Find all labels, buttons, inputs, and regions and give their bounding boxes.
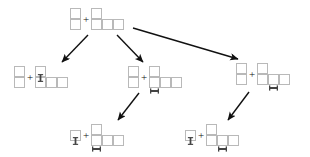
piece-cell (257, 63, 268, 74)
edge-root-to-right (133, 28, 238, 59)
left-leaf-state[interactable]: + (70, 124, 124, 146)
piece-cell (57, 77, 68, 88)
piece-cell (102, 135, 113, 146)
piece-cell (128, 77, 139, 88)
bone-horizontal-icon (269, 77, 278, 83)
piece-cell (14, 66, 25, 77)
edge-root-to-center (117, 35, 143, 62)
edge-center-to-leaf-left (118, 93, 139, 120)
piece-cell (160, 77, 171, 88)
plus-operator: + (139, 72, 149, 83)
l-shape-piece (91, 124, 124, 146)
piece-cell (236, 74, 247, 85)
piece-cell (102, 19, 113, 30)
bone-horizontal-icon (92, 138, 101, 144)
piece-cell (257, 74, 268, 85)
single-cell (185, 130, 196, 141)
vertical-domino (70, 8, 81, 30)
piece-cell (128, 66, 139, 77)
l-shape-piece (257, 63, 290, 85)
piece-cell (91, 124, 102, 135)
piece-cell (14, 77, 25, 88)
plus-operator: + (25, 72, 35, 83)
center-branch-state[interactable]: + (128, 66, 182, 88)
piece-cell (206, 124, 217, 135)
piece-cell (91, 19, 102, 30)
single-cell (70, 130, 81, 141)
piece-cell (70, 8, 81, 19)
piece-cell (149, 66, 160, 77)
piece-cell (46, 77, 57, 88)
piece-cell (70, 19, 81, 30)
bone-horizontal-icon (218, 138, 227, 144)
diagram-canvas: ++++++ (0, 0, 310, 157)
bone-horizontal-icon (150, 80, 159, 86)
edge-root-to-left (62, 35, 88, 62)
piece-cell (171, 77, 182, 88)
piece-cell (228, 135, 239, 146)
piece-cell (279, 74, 290, 85)
plus-operator: + (247, 69, 257, 80)
vertical-domino (128, 66, 139, 88)
vertical-domino (14, 66, 25, 88)
piece-cell (91, 8, 102, 19)
vertical-domino (236, 63, 247, 85)
bone-vertical-icon (187, 131, 194, 139)
left-branch-state[interactable]: + (14, 66, 68, 88)
right-branch-state[interactable]: + (236, 63, 290, 85)
l-shape-piece (35, 66, 68, 88)
plus-operator: + (196, 130, 206, 141)
piece-cell (113, 19, 124, 30)
plus-operator: + (81, 14, 91, 25)
edge-right-to-leaf-right (228, 92, 249, 120)
l-shape-piece (206, 124, 239, 146)
bone-vertical-icon (72, 131, 79, 139)
right-leaf-state[interactable]: + (185, 124, 239, 146)
piece-cell (206, 135, 217, 146)
l-shape-piece (149, 66, 182, 88)
piece-cell (236, 63, 247, 74)
plus-operator: + (81, 130, 91, 141)
root-state[interactable]: + (70, 8, 124, 30)
piece-cell (113, 135, 124, 146)
bone-vertical-icon (37, 68, 44, 76)
l-shape-piece (91, 8, 124, 30)
